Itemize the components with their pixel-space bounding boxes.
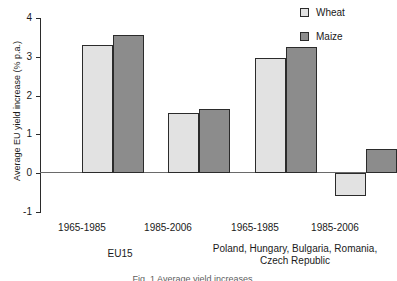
bar-wheat-1	[168, 113, 199, 173]
y-tick-label-1: 1	[26, 128, 32, 139]
y-tick-label-4: 4	[26, 12, 32, 23]
category-label-3: 1985-2006	[280, 222, 390, 233]
y-tick-1: 1	[36, 134, 41, 135]
bar-wheat-0	[82, 45, 113, 173]
y-tick-2: 2	[36, 96, 41, 97]
y-axis-title: Average EU yield increase (% p.a.)	[12, 16, 22, 206]
y-tick-4: 4	[36, 18, 41, 19]
bar-wheat-3	[335, 173, 366, 196]
plot-area: 4 3 2 1 0 -1	[40, 18, 370, 212]
bar-maize-1	[199, 109, 230, 173]
y-tick-minus-1: -1	[36, 212, 41, 213]
y-tick-label-3: 3	[26, 51, 32, 62]
y-tick-label-0: 0	[26, 167, 32, 178]
bar-maize-2	[286, 47, 317, 173]
y-axis-line	[40, 18, 41, 212]
y-tick-label-minus-1: -1	[23, 206, 32, 217]
group-label-eu15: EU15	[40, 248, 200, 260]
figure-caption-text: Fig. 1 Average yield increases	[0, 274, 385, 281]
legend-swatch-wheat-icon	[300, 8, 309, 17]
legend-label-wheat: Wheat	[316, 7, 345, 18]
bar-maize-3	[366, 149, 397, 173]
y-tick-3: 3	[36, 57, 41, 58]
y-tick-0: 0	[36, 173, 41, 174]
bar-wheat-2	[255, 58, 286, 174]
figure-caption-clipped: Fig. 1 Average yield increases	[0, 274, 385, 281]
bar-maize-0	[113, 35, 144, 173]
y-tick-label-2: 2	[26, 90, 32, 101]
group-label-cee: Poland, Hungary, Bulgaria, Romania, Czec…	[210, 243, 380, 267]
